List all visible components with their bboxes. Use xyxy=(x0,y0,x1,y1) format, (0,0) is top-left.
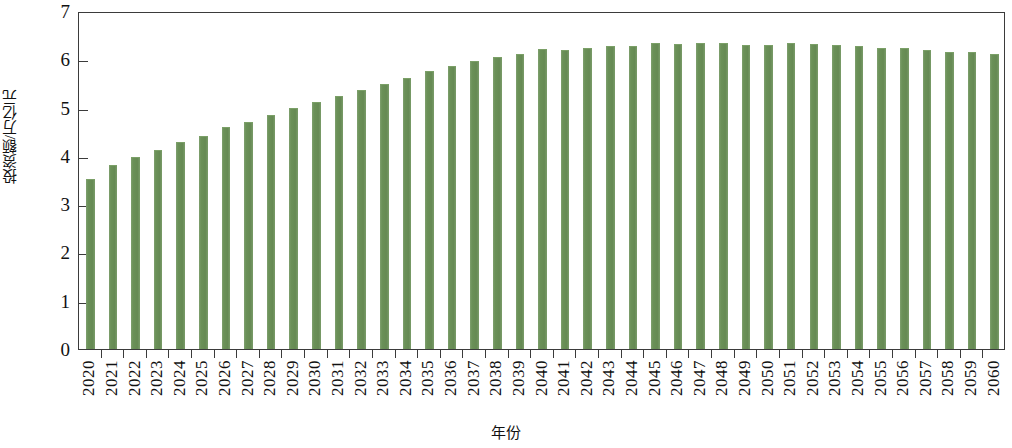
bar xyxy=(787,43,796,349)
bar xyxy=(176,142,185,349)
bar xyxy=(719,43,728,349)
bar xyxy=(651,43,660,349)
x-axis-tick-labels: 2020202120222023202420252026202720282029… xyxy=(78,360,1005,422)
x-axis-tick-mark xyxy=(598,350,599,358)
x-axis-tick-mark xyxy=(847,350,848,358)
x-axis-tick-mark xyxy=(462,350,463,358)
x-axis-tick-mark xyxy=(327,350,328,358)
bar xyxy=(448,66,457,349)
x-axis-tick-label: 2044 xyxy=(623,360,640,396)
x-axis-tick-label: 2031 xyxy=(329,360,346,396)
y-axis-tick-labels: 01234567 xyxy=(40,0,70,448)
bar xyxy=(674,44,683,349)
x-axis-tick-mark xyxy=(485,350,486,358)
x-axis-tick-mark xyxy=(982,350,983,358)
x-axis-tick-label: 2029 xyxy=(284,360,301,396)
y-axis-tick-label: 5 xyxy=(44,99,70,118)
x-axis-tick-mark xyxy=(734,350,735,358)
x-axis-tick-mark xyxy=(643,350,644,358)
bar xyxy=(810,44,819,349)
bar xyxy=(561,50,570,349)
x-axis-tick-label: 2051 xyxy=(781,360,798,396)
bar xyxy=(403,78,412,349)
bar xyxy=(877,48,886,349)
x-axis-tick-label: 2045 xyxy=(646,360,663,396)
x-axis-tick-label: 2041 xyxy=(555,360,572,396)
x-axis-tick-mark xyxy=(530,350,531,358)
x-axis-tick-label: 2053 xyxy=(826,360,843,396)
x-axis-tick-mark xyxy=(824,350,825,358)
x-axis-tick-mark xyxy=(236,350,237,358)
x-axis-tick-mark xyxy=(508,350,509,358)
bar xyxy=(289,108,298,349)
bar xyxy=(968,52,977,349)
x-axis-tick-label: 2038 xyxy=(487,360,504,396)
x-axis-tick-label: 2039 xyxy=(510,360,527,396)
plot-area xyxy=(78,12,1005,350)
x-axis-tick-label: 2021 xyxy=(103,360,120,396)
x-axis-tick-label: 2057 xyxy=(917,360,934,396)
bar xyxy=(832,45,841,349)
x-axis-tick-mark xyxy=(621,350,622,358)
x-axis-tick-label: 2054 xyxy=(849,360,866,396)
bar xyxy=(990,54,999,349)
x-axis-tick-label: 2030 xyxy=(306,360,323,396)
x-axis-tick-label: 2024 xyxy=(171,360,188,396)
x-axis-tick-mark xyxy=(214,350,215,358)
x-axis-tick-mark xyxy=(123,350,124,358)
x-axis-tick-label: 2032 xyxy=(352,360,369,396)
x-axis-tick-label: 2035 xyxy=(419,360,436,396)
x-axis-tick-label: 2026 xyxy=(216,360,233,396)
x-axis-tick-mark xyxy=(101,350,102,358)
x-axis-tick-mark xyxy=(869,350,870,358)
y-axis-tick-label: 7 xyxy=(44,2,70,21)
x-axis-tick-mark xyxy=(553,350,554,358)
bar xyxy=(923,50,932,349)
x-axis-tick-label: 2025 xyxy=(193,360,210,396)
x-axis-tick-mark xyxy=(688,350,689,358)
x-axis-tick-mark xyxy=(191,350,192,358)
bar xyxy=(425,71,434,349)
x-axis-tick-mark xyxy=(892,350,893,358)
bar xyxy=(493,57,502,349)
x-axis-tick-label: 2036 xyxy=(442,360,459,396)
bar xyxy=(606,46,615,349)
x-axis-tick-label: 2055 xyxy=(872,360,889,396)
bar xyxy=(357,90,366,349)
x-axis-tick-mark xyxy=(259,350,260,358)
x-axis-tick-label: 2022 xyxy=(126,360,143,396)
bar xyxy=(583,48,592,349)
x-axis-title: 年份 xyxy=(0,424,1012,442)
x-axis-tick-label: 2020 xyxy=(80,360,97,396)
x-axis-tick-label: 2049 xyxy=(736,360,753,396)
x-axis-tick-label: 2046 xyxy=(668,360,685,396)
x-axis-tick-mark xyxy=(666,350,667,358)
x-axis-tick-mark xyxy=(756,350,757,358)
x-axis-tick-mark xyxy=(575,350,576,358)
y-axis-tick-label: 4 xyxy=(44,147,70,166)
y-axis-tick-label: 2 xyxy=(44,243,70,262)
bar xyxy=(86,179,95,349)
x-axis-tick-label: 2052 xyxy=(804,360,821,396)
bar xyxy=(764,45,773,349)
x-axis-tick-mark xyxy=(372,350,373,358)
x-axis-tick-label: 2056 xyxy=(894,360,911,396)
bar xyxy=(538,49,547,349)
x-axis-tick-mark xyxy=(960,350,961,358)
x-axis-tick-label: 2058 xyxy=(939,360,956,396)
x-axis-tick-label: 2050 xyxy=(759,360,776,396)
x-axis-tick-mark xyxy=(349,350,350,358)
x-axis-tick-mark xyxy=(168,350,169,358)
bar xyxy=(516,54,525,349)
x-axis-tick-label: 2033 xyxy=(374,360,391,396)
bar xyxy=(742,45,751,349)
x-axis-tick-label: 2037 xyxy=(465,360,482,396)
bar xyxy=(900,48,909,349)
x-axis-tick-mark xyxy=(711,350,712,358)
y-axis-tick-label: 3 xyxy=(44,195,70,214)
bar xyxy=(855,46,864,349)
bar xyxy=(131,157,140,349)
x-axis-tick-label: 2047 xyxy=(691,360,708,396)
x-axis-tick-label: 2043 xyxy=(600,360,617,396)
x-axis-tick-mark xyxy=(304,350,305,358)
